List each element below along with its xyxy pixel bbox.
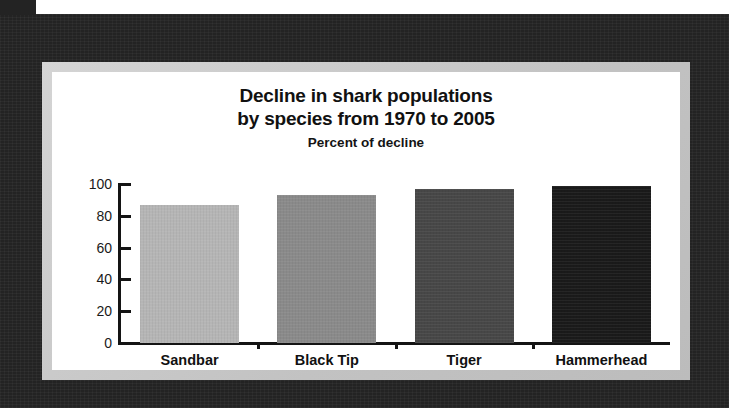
y-tick-mark: [118, 342, 131, 345]
plot-area: 020406080100 SandbarBlack TipTigerHammer…: [52, 72, 680, 370]
x-tick-mark: [532, 342, 535, 349]
bar-series: [52, 72, 680, 370]
x-category-label: Tiger: [396, 352, 533, 368]
y-tick-mark: [118, 215, 131, 218]
x-category-label: Sandbar: [121, 352, 258, 368]
chart-mount-border: Decline in shark populations by species …: [42, 62, 690, 380]
bar: [552, 186, 651, 343]
y-tick-mark: [118, 310, 131, 313]
bar: [415, 189, 514, 343]
figure-page: Decline in shark populations by species …: [0, 0, 729, 408]
top-left-dark-block: [0, 0, 36, 15]
x-category-label: Black Tip: [258, 352, 395, 368]
y-tick-mark: [118, 278, 131, 281]
x-tick-mark: [257, 342, 260, 349]
x-axis-category-labels: SandbarBlack TipTigerHammerhead: [52, 352, 680, 378]
x-tick-mark: [395, 342, 398, 349]
bar: [140, 205, 239, 343]
y-tick-mark: [118, 183, 131, 186]
bar: [277, 195, 376, 343]
y-tick-mark: [118, 247, 131, 250]
chart-panel: Decline in shark populations by species …: [52, 72, 680, 370]
x-category-label: Hammerhead: [533, 352, 670, 368]
